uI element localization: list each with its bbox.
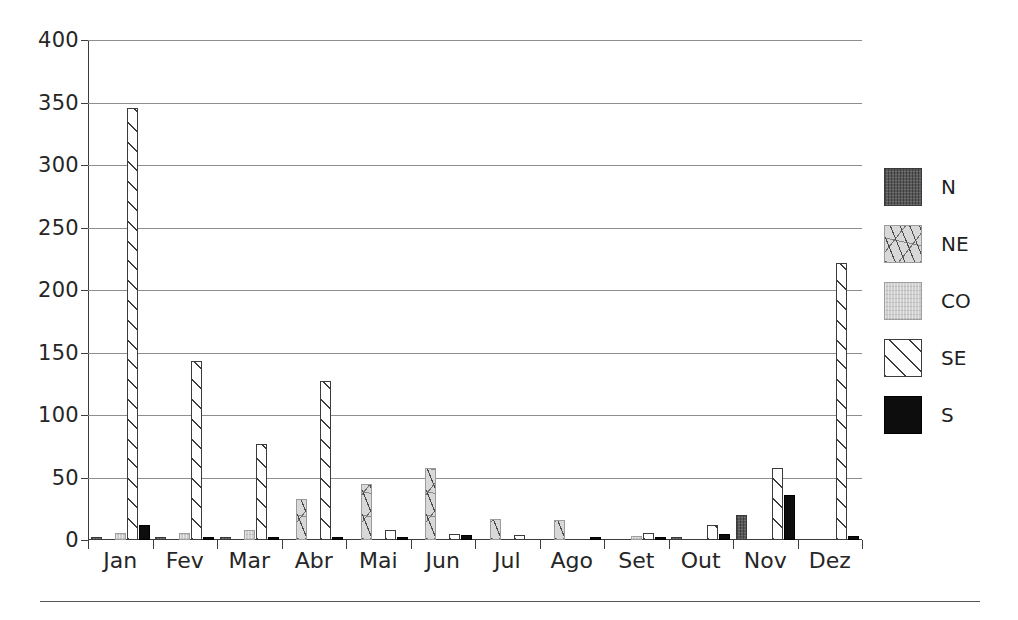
bar-group-bars (798, 40, 863, 540)
bar-se-jul[interactable] (514, 535, 525, 540)
y-tick-label: 350 (38, 91, 79, 115)
y-tick-mark (81, 540, 88, 541)
bar-n-mar[interactable] (220, 537, 231, 540)
bar-n-jan[interactable] (91, 537, 102, 540)
bar-co-fev[interactable] (179, 533, 190, 541)
bar-s-nov[interactable] (784, 495, 795, 540)
y-tick-label: 400 (38, 28, 79, 52)
y-tick-mark (81, 103, 88, 104)
bar-group (411, 40, 476, 540)
bar-group (733, 40, 798, 540)
x-tick-label-jan: Jan (103, 548, 137, 573)
bar-se-jun[interactable] (449, 534, 460, 540)
bar-co-set[interactable] (631, 536, 642, 540)
bar-s-mar[interactable] (268, 537, 279, 540)
y-tick-label: 300 (38, 153, 79, 177)
legend-label: S (941, 403, 954, 427)
bar-ne-abr[interactable] (296, 499, 307, 540)
bar-se-jan[interactable] (127, 108, 138, 541)
legend-label: N (941, 175, 956, 199)
x-tick-mark (862, 540, 863, 549)
bar-group (475, 40, 540, 540)
y-tick-mark (81, 478, 88, 479)
bar-group-bars (217, 40, 282, 540)
bar-s-set[interactable] (655, 537, 666, 540)
legend-label: SE (941, 346, 966, 370)
y-tick-mark (81, 40, 88, 41)
x-tick-label-fev: Fev (166, 548, 204, 573)
y-tick-label: 0 (65, 528, 79, 552)
bar-group (669, 40, 734, 540)
legend-item-n[interactable]: N (884, 158, 1004, 215)
bar-s-abr[interactable] (332, 537, 343, 540)
bar-se-set[interactable] (643, 533, 654, 541)
y-tick-label: 50 (52, 466, 79, 490)
bar-ne-ago[interactable] (554, 520, 565, 540)
chart-legend: NNECOSES (884, 158, 1004, 443)
legend-label: NE (941, 232, 969, 256)
bar-group (798, 40, 863, 540)
bar-ne-jun[interactable] (425, 468, 436, 541)
legend-item-s[interactable]: S (884, 386, 1004, 443)
x-tick-label-abr: Abr (295, 548, 333, 573)
bar-ne-jul[interactable] (490, 519, 501, 540)
bottom-horizontal-rule (40, 601, 980, 602)
bar-se-fev[interactable] (191, 361, 202, 540)
bar-n-fev[interactable] (155, 537, 166, 540)
bar-group (346, 40, 411, 540)
legend-swatch-co (884, 282, 922, 320)
bar-group-bars (604, 40, 669, 540)
y-tick-mark (81, 353, 88, 354)
legend-item-co[interactable]: CO (884, 272, 1004, 329)
plot-area: 050100150200250300350400 (88, 40, 862, 540)
x-axis-tick-labels: JanFevMarAbrMaiJunJulAgoSetOutNovDez (88, 548, 862, 582)
x-tick-label-mar: Mar (228, 548, 270, 573)
y-tick-mark (81, 290, 88, 291)
bar-co-jan[interactable] (115, 533, 126, 541)
bar-group (604, 40, 669, 540)
y-tick-mark (81, 228, 88, 229)
bar-se-mar[interactable] (256, 444, 267, 540)
legend-swatch-se (884, 339, 922, 377)
x-tick-label-dez: Dez (809, 548, 851, 573)
x-tick-label-jul: Jul (494, 548, 521, 573)
bar-co-mar[interactable] (244, 530, 255, 540)
bar-se-mai[interactable] (385, 530, 396, 540)
bar-s-dez[interactable] (848, 536, 859, 540)
bar-n-out[interactable] (671, 537, 682, 540)
bar-se-dez[interactable] (836, 263, 847, 541)
x-tick-label-jun: Jun (426, 548, 460, 573)
bar-group (153, 40, 218, 540)
legend-item-se[interactable]: SE (884, 329, 1004, 386)
bar-se-out[interactable] (707, 525, 718, 540)
bar-s-jan[interactable] (139, 525, 150, 540)
bar-group-bars (346, 40, 411, 540)
chart-figure: 050100150200250300350400 JanFevMarAbrMai… (0, 0, 1018, 620)
bar-group-bars (411, 40, 476, 540)
x-tick-label-nov: Nov (744, 548, 787, 573)
y-tick-label: 200 (38, 278, 79, 302)
bar-n-nov[interactable] (736, 515, 747, 540)
bar-s-ago[interactable] (590, 537, 601, 540)
bar-se-nov[interactable] (772, 468, 783, 541)
bar-s-fev[interactable] (203, 537, 214, 540)
bar-group (217, 40, 282, 540)
bar-s-out[interactable] (719, 534, 730, 540)
bar-group-bars (669, 40, 734, 540)
bar-group-bars (153, 40, 218, 540)
y-tick-label: 150 (38, 341, 79, 365)
x-tick-label-ago: Ago (551, 548, 593, 573)
bar-group (88, 40, 153, 540)
bar-s-jun[interactable] (461, 535, 472, 540)
x-tick-label-mai: Mai (359, 548, 398, 573)
bar-group-bars (733, 40, 798, 540)
legend-swatch-n (884, 168, 922, 206)
x-tick-label-out: Out (681, 548, 721, 573)
bar-se-abr[interactable] (320, 381, 331, 540)
bar-s-mai[interactable] (397, 537, 408, 540)
y-tick-mark (81, 415, 88, 416)
legend-swatch-ne (884, 225, 922, 263)
bar-ne-mai[interactable] (361, 484, 372, 540)
legend-item-ne[interactable]: NE (884, 215, 1004, 272)
legend-label: CO (941, 289, 971, 313)
